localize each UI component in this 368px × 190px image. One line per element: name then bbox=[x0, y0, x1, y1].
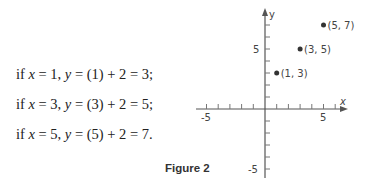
y-tick-label-neg5: -5 bbox=[248, 164, 258, 175]
x-tick-label-neg5: -5 bbox=[201, 112, 211, 123]
y-axis-arrow-icon bbox=[262, 8, 268, 16]
data-point-label: (5, 7) bbox=[328, 20, 355, 31]
data-point-label: (1, 3) bbox=[281, 68, 308, 79]
data-point bbox=[298, 47, 303, 52]
y-tick-label-5: 5 bbox=[253, 44, 259, 55]
data-point bbox=[321, 23, 326, 28]
figure-caption: Figure 2 bbox=[165, 162, 210, 174]
x-tick-label-5: 5 bbox=[320, 112, 326, 123]
data-point-label: (3, 5) bbox=[304, 44, 331, 55]
x-axis-label: x bbox=[339, 96, 346, 107]
y-axis-label: y bbox=[269, 9, 275, 20]
data-point bbox=[274, 71, 279, 76]
